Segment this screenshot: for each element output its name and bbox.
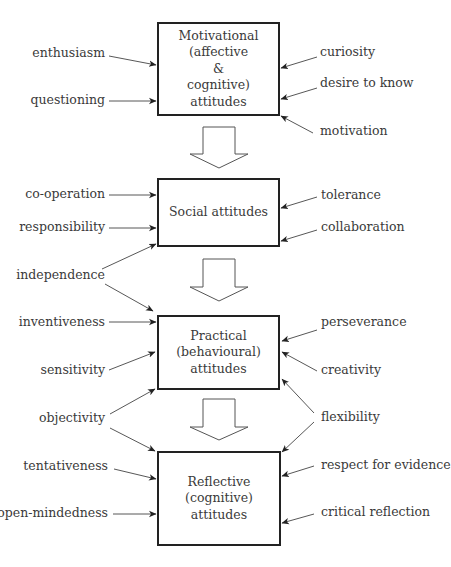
label-inventiveness: inventiveness (19, 316, 105, 329)
arrow-collaboration (281, 230, 317, 241)
box-motivational-line-4: cognitive) (179, 77, 259, 94)
box-motivational-line-5: attitudes (179, 94, 259, 111)
box-motivational-line-1: Motivational (179, 28, 259, 45)
arrow-independence-practical (105, 284, 153, 311)
label-open-mindedness: open-mindedness (0, 507, 108, 520)
box-reflective-line-3: attitudes (185, 507, 253, 524)
label-independence: independence (16, 269, 105, 282)
box-practical-attitudes: Practical (behavioural) attitudes (157, 315, 280, 390)
arrow-sensitivity (109, 352, 155, 370)
label-desire-to-know: desire to know (320, 77, 414, 90)
arrow-curiosity (281, 57, 317, 68)
label-tolerance: tolerance (321, 189, 381, 202)
label-curiosity: curiosity (320, 46, 375, 59)
arrow-respect-for-evidence (282, 466, 314, 476)
box-reflective-line-1: Reflective (185, 474, 253, 491)
arrow-perseverance (282, 330, 317, 341)
label-enthusiasm: enthusiasm (32, 47, 105, 60)
label-objectivity: objectivity (39, 412, 105, 425)
box-motivational-attitudes: Motivational (affective & cognitive) att… (157, 22, 280, 116)
box-reflective-line-2: (cognitive) (185, 490, 253, 507)
arrow-enthusiasm (109, 56, 156, 65)
arrow-creativity (282, 352, 317, 371)
box-motivational-line-2: (affective (179, 44, 259, 61)
label-collaboration: collaboration (321, 221, 405, 234)
box-social-attitudes: Social attitudes (157, 178, 280, 247)
arrow-desire-to-know (281, 88, 317, 99)
flow-arrow-2 (190, 259, 248, 301)
box-reflective-attitudes: Reflective (cognitive) attitudes (157, 451, 281, 546)
flow-arrow-1 (190, 127, 248, 168)
box-motivational-line-3: & (179, 61, 259, 78)
label-perseverance: perseverance (321, 316, 407, 329)
label-motivation: motivation (320, 125, 388, 138)
arrow-independence-social (102, 244, 156, 269)
label-respect-for-evidence: respect for evidence (321, 459, 451, 472)
box-practical-line-3: attitudes (176, 361, 261, 378)
arrow-tolerance (281, 197, 317, 208)
label-sensitivity: sensitivity (41, 364, 105, 377)
label-questioning: questioning (30, 94, 105, 107)
arrow-critical-reflection (282, 514, 314, 523)
label-co-operation: co-operation (25, 188, 105, 201)
arrow-flexibility-practical (282, 379, 314, 413)
label-responsibility: responsibility (19, 221, 105, 234)
flow-arrow-3 (190, 399, 248, 440)
box-practical-line-1: Practical (176, 328, 261, 345)
label-tentativeness: tentativeness (23, 460, 108, 473)
arrow-flexibility-reflective (282, 422, 314, 452)
arrow-objectivity-reflective (110, 428, 155, 451)
label-flexibility: flexibility (321, 411, 380, 424)
arrow-tentativeness (114, 469, 156, 479)
box-practical-line-2: (behavioural) (176, 344, 261, 361)
label-critical-reflection: critical reflection (321, 506, 430, 519)
arrow-objectivity-practical (110, 389, 155, 414)
box-social-line-1: Social attitudes (169, 204, 268, 221)
label-creativity: creativity (321, 364, 381, 377)
arrow-motivation (281, 116, 313, 133)
